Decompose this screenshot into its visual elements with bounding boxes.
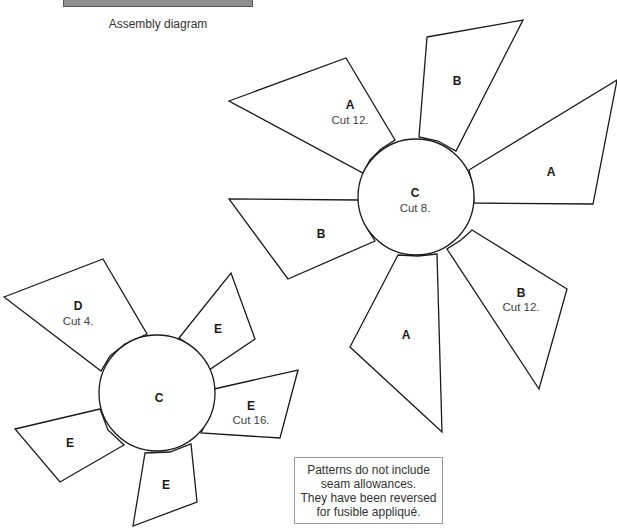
label-a-right: A xyxy=(547,165,556,179)
petal-a-right xyxy=(469,80,617,204)
note-line-4: for fusible appliqué. xyxy=(316,505,420,519)
small-flower: D Cut 4. E E Cut 16. E E C xyxy=(4,259,298,526)
label-e-left: E xyxy=(66,436,74,450)
cut-c-large: Cut 8. xyxy=(400,202,431,214)
seam-allowance-note: Patterns do not include seam allowances.… xyxy=(294,457,443,524)
pattern-pieces-diagram: A Cut 12. B A B Cut 12. A B C Cut 8. D C… xyxy=(0,0,617,529)
petal-b-top xyxy=(419,20,523,151)
label-e-right: E xyxy=(247,399,255,413)
label-b-lower-right: B xyxy=(517,286,526,300)
cut-e-right: Cut 16. xyxy=(232,414,269,426)
note-line-1: Patterns do not include xyxy=(307,463,430,477)
label-a-upper-left: A xyxy=(346,98,355,112)
cut-d-upper-left: Cut 4. xyxy=(63,315,94,327)
label-c-small: C xyxy=(155,391,164,405)
label-c-large: C xyxy=(411,186,420,200)
label-d-upper-left: D xyxy=(74,299,83,313)
large-flower: A Cut 12. B A B Cut 12. A B C Cut 8. xyxy=(229,20,617,432)
note-line-2: seam allowances. xyxy=(321,477,416,491)
note-line-3: They have been reversed xyxy=(300,491,436,505)
label-e-upper-right: E xyxy=(214,322,222,336)
petal-a-upper-left xyxy=(229,58,395,173)
label-e-bottom: E xyxy=(162,478,170,492)
petal-b-left xyxy=(229,199,375,279)
cut-b-lower-right: Cut 12. xyxy=(502,301,539,313)
cut-a-upper-left: Cut 12. xyxy=(331,114,368,126)
label-a-bottom: A xyxy=(402,328,411,342)
petal-a-bottom xyxy=(350,254,442,432)
label-b-left: B xyxy=(317,227,326,241)
label-b-top: B xyxy=(453,74,462,88)
